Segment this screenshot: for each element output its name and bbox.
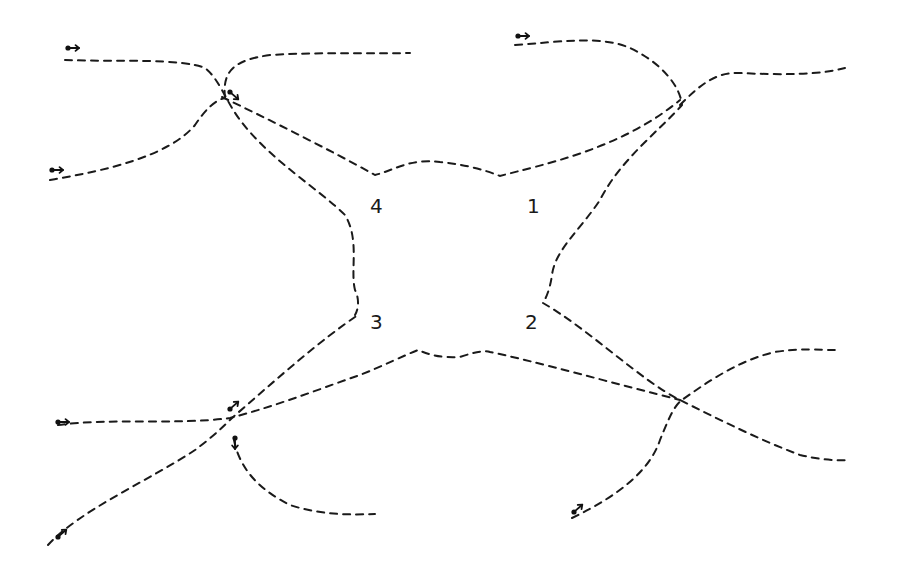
region-label-1: 1	[527, 196, 540, 216]
path-crossing-down-right	[234, 440, 375, 514]
start-marker-crossing-top-left-icon	[227, 89, 238, 99]
trajectory-diagram	[0, 0, 902, 575]
path-right-top-exit	[680, 68, 845, 105]
path-left-to-top	[50, 53, 410, 180]
start-marker-crossing-bottom-left-down-icon	[232, 435, 238, 449]
start-marker-left-icon	[49, 167, 63, 173]
region-label-3: 3	[370, 312, 383, 332]
path-top-left-to-region-3	[65, 60, 358, 315]
paths-layer	[48, 40, 848, 545]
path-bottom-right-up	[572, 350, 835, 519]
start-marker-top-right-icon	[515, 33, 529, 39]
start-marker-crossing-bottom-left-up-icon	[227, 402, 238, 412]
region-label-4: 4	[370, 196, 383, 216]
path-bottom-left-across	[58, 350, 680, 425]
start-marker-bottom-left-diagonal-icon	[55, 530, 66, 540]
path-top-right-loop	[515, 40, 682, 303]
markers-layer	[49, 33, 582, 539]
start-marker-top-left-icon	[65, 45, 79, 51]
path-crossing-to-top-right	[222, 97, 680, 176]
start-marker-bottom-right-icon	[571, 505, 582, 515]
path-region-2-to-right	[543, 303, 848, 460]
region-label-2: 2	[525, 312, 538, 332]
